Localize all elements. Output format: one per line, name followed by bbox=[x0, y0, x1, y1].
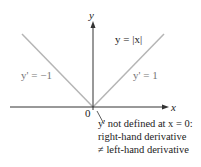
y-axis-label: y bbox=[89, 10, 94, 21]
x-axis-label: x bbox=[171, 102, 176, 113]
annotation-line-1: y' not defined at x = 0: bbox=[98, 117, 193, 130]
function-label: y = |x| bbox=[115, 34, 142, 45]
origin-label: 0 bbox=[85, 108, 91, 119]
right-derivative-label: y' = 1 bbox=[133, 70, 158, 81]
y-axis-arrow-icon bbox=[91, 21, 96, 28]
annotation-line-3: ≠ left-hand derivative bbox=[98, 143, 193, 156]
annotation-text: y' not defined at x = 0: right-hand deri… bbox=[98, 117, 193, 156]
left-derivative-label: y' = −1 bbox=[21, 70, 52, 81]
x-axis-arrow-icon bbox=[162, 105, 169, 110]
annotation-line-2: right-hand derivative bbox=[98, 130, 193, 143]
